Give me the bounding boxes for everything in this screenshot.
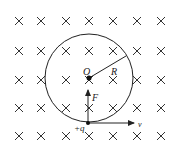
field-cross-icon	[37, 132, 45, 140]
field-cross-icon	[85, 132, 93, 140]
field-cross-icon	[62, 76, 70, 84]
field-cross-icon	[133, 132, 141, 140]
field-cross-icon	[37, 47, 45, 55]
charge-particle	[86, 121, 90, 125]
field-cross-icon	[109, 17, 117, 25]
diagram-canvas: O R F +q v	[0, 0, 179, 152]
field-cross-icon	[37, 76, 45, 84]
field-cross-icon	[109, 47, 117, 55]
field-cross-icon	[133, 47, 141, 55]
field-cross-icon	[62, 132, 70, 140]
field-cross-icon	[85, 47, 93, 55]
field-cross-icon	[15, 132, 23, 140]
label-center: O	[83, 66, 90, 77]
label-force: F	[91, 92, 99, 103]
field-cross-icon	[157, 76, 165, 84]
field-cross-icon	[15, 104, 23, 112]
label-velocity: v	[138, 120, 142, 129]
field-cross-icon	[62, 17, 70, 25]
field-cross-icon	[133, 76, 141, 84]
field-cross-icon	[15, 47, 23, 55]
label-charge: +q	[74, 123, 85, 133]
field-cross-icon	[15, 76, 23, 84]
field-cross-icon	[85, 17, 93, 25]
field-cross-icon	[15, 17, 23, 25]
physics-diagram: O R F +q v	[0, 0, 179, 152]
field-cross-icon	[157, 132, 165, 140]
field-cross-icon	[109, 132, 117, 140]
radius-line	[89, 56, 126, 78]
field-cross-icon	[37, 17, 45, 25]
field-cross-icon	[62, 104, 70, 112]
field-cross-icon	[109, 104, 117, 112]
label-radius: R	[110, 66, 117, 77]
field-cross-icon	[157, 47, 165, 55]
field-cross-icon	[62, 47, 70, 55]
field-cross-icon	[157, 104, 165, 112]
field-cross-icon	[109, 76, 117, 84]
field-cross-icon	[37, 104, 45, 112]
field-cross-icon	[157, 17, 165, 25]
field-cross-icon	[133, 104, 141, 112]
field-cross-icon	[85, 104, 93, 112]
field-cross-icon	[133, 17, 141, 25]
